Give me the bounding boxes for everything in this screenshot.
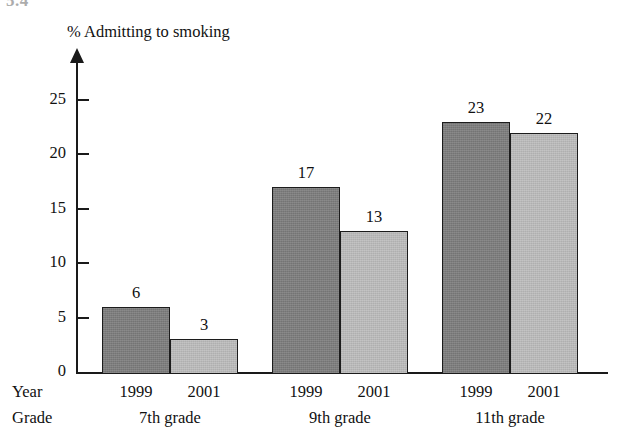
bar-11th-grade-2001 <box>510 133 578 374</box>
x-axis-year-label: 1999 <box>442 382 510 402</box>
y-tick-label: 20 <box>26 145 66 162</box>
bar-value-label: 6 <box>102 285 170 302</box>
y-axis-arrow-icon <box>70 48 84 63</box>
bar-7th-grade-1999 <box>102 307 170 374</box>
plot-area: 0510152025 6317132322 199920017th grade1… <box>0 0 631 446</box>
y-tick-label: 0 <box>26 363 66 380</box>
x-axis-year-label: 2001 <box>510 382 578 402</box>
bar-9th-grade-2001 <box>340 231 408 374</box>
bar-value-label: 3 <box>170 317 238 334</box>
x-axis-year-label: 1999 <box>102 382 170 402</box>
y-tick-mark <box>78 262 89 264</box>
y-axis-line <box>76 60 78 374</box>
x-axis-year-label: 2001 <box>340 382 408 402</box>
bar-11th-grade-1999 <box>442 122 510 374</box>
bar-7th-grade-2001 <box>170 339 238 374</box>
x-axis-year-label: 1999 <box>272 382 340 402</box>
y-tick-mark <box>78 99 89 101</box>
bar-9th-grade-1999 <box>272 187 340 374</box>
y-tick-mark <box>78 153 89 155</box>
smoking-bar-chart-figure: 5.4 % Admitting to smoking 0510152025 63… <box>0 0 631 446</box>
y-tick-mark <box>78 317 89 319</box>
y-tick-label: 15 <box>26 200 66 217</box>
row-label-grade: Grade <box>12 408 52 428</box>
y-tick-mark <box>78 208 89 210</box>
y-tick-label: 10 <box>26 254 66 271</box>
x-axis-grade-label: 11th grade <box>442 408 578 428</box>
row-label-year: Year <box>12 382 42 402</box>
x-axis-grade-label: 9th grade <box>272 408 408 428</box>
bar-value-label: 17 <box>272 165 340 182</box>
x-axis-year-label: 2001 <box>170 382 238 402</box>
bar-value-label: 23 <box>442 100 510 117</box>
x-axis-grade-label: 7th grade <box>102 408 238 428</box>
y-tick-label: 5 <box>26 309 66 326</box>
bar-value-label: 13 <box>340 209 408 226</box>
y-tick-label: 25 <box>26 91 66 108</box>
bar-value-label: 22 <box>510 111 578 128</box>
